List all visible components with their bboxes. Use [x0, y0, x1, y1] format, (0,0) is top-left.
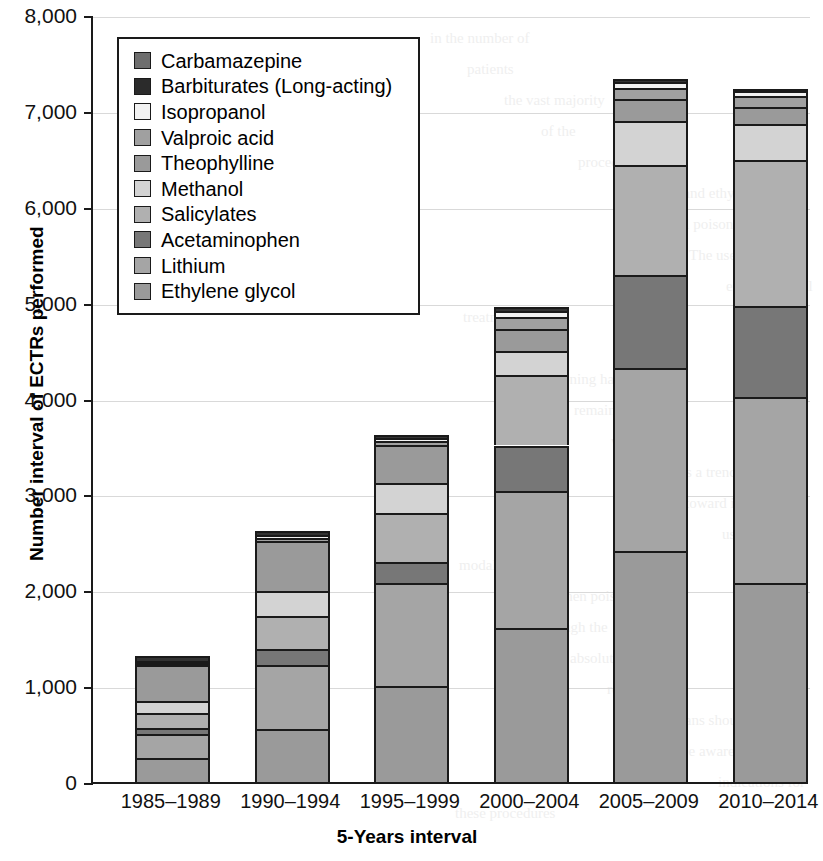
bar-segment	[374, 445, 449, 482]
legend-swatch-icon	[134, 231, 151, 248]
y-axis-tick-label: 0	[0, 771, 77, 795]
legend-swatch-icon	[134, 283, 151, 300]
bar-segment	[733, 107, 808, 124]
bar-segment	[374, 441, 449, 445]
legend-item: Isopropanol	[119, 99, 418, 125]
x-axis-tick-label: 1990–1994	[230, 790, 350, 813]
bar-segment	[494, 329, 569, 351]
bar-segment	[374, 686, 449, 782]
bar-segment	[135, 728, 210, 734]
bar-segment	[494, 628, 569, 782]
bar-segment	[255, 729, 330, 782]
y-axis-tick	[84, 304, 93, 306]
bar-segment	[135, 758, 210, 782]
bar-segment	[733, 91, 808, 95]
x-axis-tick-label: 1985–1989	[111, 790, 231, 813]
bar-segment	[613, 275, 688, 368]
bar-segment	[135, 734, 210, 758]
y-axis-tick-label: 2,000	[0, 579, 77, 603]
bar-segment	[374, 562, 449, 583]
bar-segment	[733, 89, 808, 91]
legend-item: Acetaminophen	[119, 227, 418, 253]
x-axis-title: 5-Years interval	[0, 826, 814, 848]
legend-item: Salicylates	[119, 202, 418, 228]
bar-segment	[255, 538, 330, 542]
legend-item-label: Salicylates	[161, 204, 257, 224]
bar-segment	[613, 368, 688, 551]
x-axis-tick-label: 2000–2004	[469, 790, 589, 813]
bar-segment	[255, 541, 330, 591]
legend-swatch-icon	[134, 206, 151, 223]
legend-swatch-icon	[134, 78, 151, 95]
bar-segment	[733, 96, 808, 108]
legend-item: Carbamazepine	[119, 48, 418, 74]
y-axis-tick	[84, 495, 93, 497]
y-axis-tick	[84, 783, 93, 785]
y-axis-tick	[84, 687, 93, 689]
bar-segment	[613, 88, 688, 100]
bar-segment	[613, 79, 688, 82]
bar-segment	[135, 701, 210, 713]
x-axis-tick-label: 2005–2009	[589, 790, 709, 813]
chart-legend: CarbamazepineBarbiturates (Long-acting)I…	[117, 37, 420, 315]
legend-swatch-icon	[134, 155, 151, 172]
bar-segment	[135, 661, 210, 663]
y-axis-tick	[84, 591, 93, 593]
bar-segment	[255, 649, 330, 665]
bar-segment	[374, 435, 449, 438]
legend-item-label: Ethylene glycol	[161, 281, 296, 301]
bar-segment	[255, 616, 330, 649]
bar-segment	[374, 438, 449, 441]
bar-segment	[494, 311, 569, 317]
legend-item: Barbiturates (Long-acting)	[119, 74, 418, 100]
bar-segment	[494, 446, 569, 491]
bar-column	[733, 15, 808, 782]
y-axis-tick-label: 3,000	[0, 483, 77, 507]
bar-segment	[494, 375, 569, 446]
legend-item: Valproic acid	[119, 125, 418, 151]
y-axis-tick-label: 6,000	[0, 196, 77, 220]
y-axis-tick-label: 5,000	[0, 292, 77, 316]
legend-item-label: Theophylline	[161, 153, 274, 173]
legend-item-label: Isopropanol	[161, 102, 266, 122]
legend-item-label: Lithium	[161, 256, 225, 276]
y-axis-tick-label: 7,000	[0, 100, 77, 124]
legend-item: Ethylene glycol	[119, 278, 418, 304]
bar-segment	[255, 665, 330, 729]
legend-item-label: Methanol	[161, 179, 243, 199]
bar-segment	[255, 535, 330, 537]
legend-item-label: Acetaminophen	[161, 230, 300, 250]
legend-item-label: Carbamazepine	[161, 51, 302, 71]
bar-segment	[374, 483, 449, 513]
bar-segment	[613, 165, 688, 275]
bar-segment	[733, 160, 808, 307]
legend-item-label: Valproic acid	[161, 128, 274, 148]
y-axis-tick-label: 1,000	[0, 675, 77, 699]
y-axis-tick-label: 4,000	[0, 388, 77, 412]
bar-segment	[733, 124, 808, 159]
bar-segment	[613, 82, 688, 88]
bar-segment	[374, 513, 449, 562]
bar-segment	[135, 713, 210, 728]
y-axis-tick	[84, 208, 93, 210]
x-axis-tick-label: 1995–1999	[350, 790, 470, 813]
legend-item-label: Barbiturates (Long-acting)	[161, 76, 392, 96]
legend-swatch-icon	[134, 257, 151, 274]
y-axis-tick	[84, 112, 93, 114]
y-axis-tick-label: 8,000	[0, 4, 77, 28]
bar-segment	[613, 121, 688, 164]
legend-item: Theophylline	[119, 150, 418, 176]
bar-column	[613, 15, 688, 782]
bar-segment	[494, 307, 569, 311]
bar-segment	[613, 551, 688, 782]
y-axis-tick	[84, 400, 93, 402]
bar-segment	[135, 656, 210, 660]
bar-segment	[135, 663, 210, 665]
bar-segment	[494, 351, 569, 375]
legend-swatch-icon	[134, 129, 151, 146]
legend-swatch-icon	[134, 180, 151, 197]
bar-segment	[733, 397, 808, 583]
bar-segment	[494, 491, 569, 628]
bar-segment	[255, 591, 330, 616]
